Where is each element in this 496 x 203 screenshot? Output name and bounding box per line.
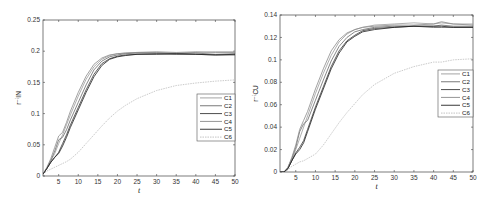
- y-tick-label: 0.06: [264, 101, 277, 108]
- legend-label-c2: C2: [462, 78, 470, 85]
- legend-label-c2: C2: [224, 102, 232, 109]
- x-tick-label: 10: [75, 178, 83, 185]
- y-tick-label: 0: [273, 168, 277, 175]
- y-axis-label: r⁻ⁱCU: [252, 85, 259, 102]
- x-tick-label: 30: [153, 178, 161, 185]
- legend: C1C2C3C4C5C6: [197, 94, 235, 141]
- y-tick-label: 0.15: [27, 79, 40, 86]
- x-axis-label: t: [375, 182, 378, 191]
- x-tick-label: 10: [312, 174, 320, 181]
- x-tick-label: 35: [173, 178, 181, 185]
- y-tick-label: 0.25: [27, 16, 40, 23]
- x-tick-label: 45: [212, 178, 220, 185]
- legend: C1C2C3C4C5C6: [438, 70, 473, 117]
- legend-label-c4: C4: [224, 118, 232, 125]
- legend-label-c6: C6: [224, 133, 232, 140]
- x-tick-label: 5: [57, 178, 61, 185]
- y-tick-label: 0.1: [268, 56, 277, 63]
- y-tick-label: 0.05: [27, 141, 40, 148]
- x-tick-label: 5: [294, 174, 298, 181]
- x-tick-label: 20: [351, 174, 359, 181]
- x-tick-label: 40: [192, 178, 200, 185]
- legend-label-c5: C5: [224, 125, 232, 132]
- x-axis-label: t: [138, 186, 141, 195]
- y-tick-label: 0.02: [264, 146, 277, 153]
- y-axis-label: r⁻ⁱIN: [15, 91, 22, 105]
- x-tick-label: 50: [469, 174, 477, 181]
- x-tick-label: 25: [371, 174, 379, 181]
- y-tick-label: 0.1: [31, 110, 40, 117]
- figure: 510152025303540455000.050.10.150.20.25tr…: [0, 0, 496, 203]
- x-tick-label: 40: [430, 174, 438, 181]
- x-tick-label: 45: [450, 174, 458, 181]
- x-tick-label: 20: [114, 178, 122, 185]
- y-tick-label: 0.14: [264, 11, 277, 18]
- y-tick-label: 0: [36, 172, 40, 179]
- chart-panel-2: 510152025303540455000.020.040.060.080.10…: [252, 11, 477, 191]
- y-tick-label: 0.08: [264, 78, 277, 85]
- chart-panel-1: 510152025303540455000.050.10.150.20.25tr…: [15, 16, 239, 195]
- x-tick-label: 15: [332, 174, 340, 181]
- x-tick-label: 30: [391, 174, 399, 181]
- x-tick-label: 50: [231, 178, 239, 185]
- y-tick-label: 0.04: [264, 123, 277, 130]
- x-tick-label: 25: [133, 178, 141, 185]
- y-tick-label: 0.2: [31, 47, 40, 54]
- x-tick-label: 15: [94, 178, 102, 185]
- legend-label-c6: C6: [462, 109, 470, 116]
- legend-label-c3: C3: [224, 110, 232, 117]
- chart-canvas: 510152025303540455000.050.10.150.20.25tr…: [0, 0, 496, 203]
- legend-label-c5: C5: [462, 101, 470, 108]
- y-tick-label: 0.12: [264, 34, 277, 41]
- legend-label-c1: C1: [462, 70, 470, 77]
- x-tick-label: 35: [410, 174, 418, 181]
- legend-label-c4: C4: [462, 94, 470, 101]
- legend-label-c1: C1: [224, 94, 232, 101]
- legend-label-c3: C3: [462, 86, 470, 93]
